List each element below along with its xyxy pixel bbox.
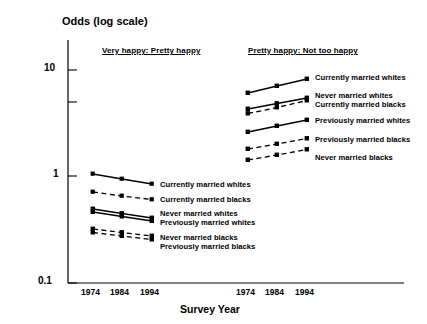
series-left-currently-married-blacks	[91, 190, 154, 202]
series-right-previously-married-whites	[246, 118, 309, 134]
panel-left-title: Very happy: Pretty happy	[102, 47, 200, 55]
panel-left-series	[91, 172, 154, 242]
y-axis-ticks	[68, 70, 77, 283]
series-right-previously-married-blacks	[246, 136, 309, 151]
xtick-left-1984: 1984	[110, 288, 129, 297]
series-left-currently-married-whites	[91, 172, 154, 186]
panel-right-series	[246, 77, 309, 162]
xtick-left-1974: 1974	[81, 288, 100, 297]
series-label-left-currently-married-blacks: Currently married blacks	[160, 196, 251, 204]
series-label-right-currently-married-blacks: Currently married blacks	[315, 101, 406, 109]
series-right-currently-married-whites	[246, 77, 309, 95]
xtick-right-1974: 1974	[236, 288, 255, 297]
odds-log-scale-chart: Odds (log scale) 10 1 0.1 Very happy: Pr…	[0, 0, 427, 324]
y-axis-title: Odds (log scale)	[62, 16, 148, 28]
series-label-left-currently-married-whites: Currently married whites	[160, 181, 251, 189]
series-label-left-previously-married-blacks: Previously married blacks	[160, 243, 255, 251]
series-label-left-never-married-blacks: Never married blacks	[160, 234, 238, 242]
xtick-right-1984: 1984	[265, 288, 284, 297]
panel-right-title: Pretty happy: Not too happy	[248, 47, 358, 55]
x-axis-title: Survey Year	[180, 304, 240, 315]
y-tick-label-1: 1	[53, 169, 59, 180]
series-right-currently-married-blacks	[246, 98, 309, 115]
series-label-right-previously-married-whites: Previously married whites	[315, 117, 410, 125]
y-tick-label-0-1: 0.1	[38, 276, 52, 287]
series-label-left-previously-married-whites: Previously married whites	[160, 219, 255, 227]
series-label-right-previously-married-blacks: Previously married blacks	[315, 136, 410, 144]
y-tick-label-10: 10	[44, 63, 55, 74]
series-label-left-never-married-whites: Never married whites	[160, 210, 238, 218]
series-label-right-never-married-whites: Never married whites	[315, 92, 393, 100]
plot-canvas	[0, 0, 427, 324]
xtick-left-1994: 1994	[140, 288, 159, 297]
xtick-right-1994: 1994	[295, 288, 314, 297]
series-label-right-currently-married-whites: Currently married whites	[315, 74, 406, 82]
series-label-right-never-married-blacks: Never married blacks	[315, 154, 393, 162]
series-right-never-married-blacks	[246, 147, 309, 162]
